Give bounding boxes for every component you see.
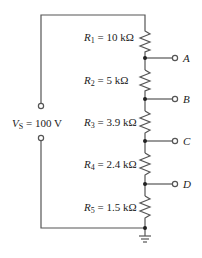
resistor-label-r1: R1 = 10 kΩ bbox=[84, 31, 134, 43]
resistor-r5 bbox=[140, 196, 150, 228]
ground-icon bbox=[139, 236, 151, 242]
terminal-label-b: B bbox=[183, 93, 190, 105]
resistor-r1 bbox=[140, 28, 150, 58]
terminal-label-c: C bbox=[183, 135, 190, 147]
source-terminal-bottom bbox=[38, 135, 43, 140]
terminal-b bbox=[172, 96, 177, 101]
node-d bbox=[143, 182, 147, 186]
resistor-label-r2: R2 = 5 kΩ bbox=[84, 74, 128, 86]
terminal-label-a: A bbox=[183, 52, 190, 64]
node-c bbox=[143, 139, 147, 143]
resistor-label-r5: R5 = 1.5 kΩ bbox=[84, 201, 137, 213]
terminal-a bbox=[172, 55, 177, 60]
resistor-r3 bbox=[140, 111, 150, 141]
resistor-r4 bbox=[140, 153, 150, 184]
resistor-r2 bbox=[140, 70, 150, 99]
node-b bbox=[143, 97, 147, 101]
terminal-label-d: D bbox=[183, 178, 191, 190]
node-ground bbox=[143, 226, 147, 230]
node-a bbox=[143, 56, 147, 60]
source-terminal-top bbox=[38, 103, 43, 108]
terminal-c bbox=[172, 138, 177, 143]
resistor-label-r3: R3 = 3.9 kΩ bbox=[84, 116, 137, 128]
source-label: VS = 100 V bbox=[12, 117, 62, 129]
top-wire bbox=[41, 15, 145, 103]
resistor-label-r4: R4 = 2.4 kΩ bbox=[84, 158, 137, 170]
terminal-d bbox=[172, 181, 177, 186]
